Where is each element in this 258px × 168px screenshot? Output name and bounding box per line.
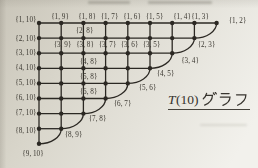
vertex-label: {3, 9} <box>54 41 72 49</box>
vertex-label: {2, 10} <box>15 35 36 43</box>
vertex-label: {7, 8} <box>89 115 107 123</box>
graph-node <box>81 51 85 55</box>
vertex-label: {7, 10} <box>15 109 36 117</box>
vertex-label: {5, 6} <box>139 84 157 92</box>
graph-node <box>170 36 174 40</box>
graph-node <box>148 66 152 70</box>
graph-node <box>59 81 63 85</box>
diagram-title: T(10) <box>168 92 250 110</box>
graph-node <box>192 36 196 40</box>
graph-arc <box>150 53 172 68</box>
graph-node <box>59 127 63 131</box>
vertex-label: {1, 7} <box>101 13 119 21</box>
vertex-label: {1, 5} <box>146 13 164 21</box>
katakana-fu <box>236 95 245 106</box>
vertex-label: {6, 10} <box>15 94 36 102</box>
graph-node <box>170 21 174 25</box>
graph-node <box>59 96 63 100</box>
graph-node <box>103 96 107 100</box>
title-variable-T: T <box>168 92 176 107</box>
vertex-label: {3, 6} <box>121 41 139 49</box>
vertex-label: {1, 10} <box>15 16 36 24</box>
graph-arc <box>61 114 83 129</box>
graph-node <box>37 96 41 100</box>
vertex-label: {8, 9} <box>65 131 83 139</box>
graph-node <box>59 111 63 115</box>
diagram-title-math: T(10) <box>168 93 199 107</box>
graph-node <box>37 142 41 146</box>
graph-arc <box>194 23 216 38</box>
graph-node <box>37 127 41 131</box>
graph-arc <box>128 68 150 83</box>
katakana-ra <box>220 94 230 106</box>
vertex-label: {1, 3} <box>191 13 209 21</box>
vertex-label: {3, 8} <box>76 41 94 49</box>
graph-node <box>81 66 85 70</box>
graph-node <box>59 21 63 25</box>
vertex-label: {8, 10} <box>15 127 36 135</box>
graph-node <box>37 66 41 70</box>
graph-node <box>37 111 41 115</box>
katakana-gu <box>203 92 216 105</box>
graph-node <box>103 21 107 25</box>
vertex-label: {1, 9} <box>51 13 69 21</box>
vertex-label: {3, 10} <box>15 49 36 57</box>
vertex-label: {1, 2} <box>229 17 247 25</box>
vertex-label: {6, 8} <box>80 88 98 96</box>
graph-node <box>126 21 130 25</box>
graph-arc <box>172 38 194 53</box>
vertex-label: {3, 4} <box>181 57 199 65</box>
graph-node <box>37 81 41 85</box>
title-argument: (10) <box>176 92 199 107</box>
title-katakana-graph-text <box>202 92 249 107</box>
graph-node <box>192 21 196 25</box>
vertex-label: {6, 7} <box>114 100 132 108</box>
graph-node <box>126 51 130 55</box>
graph-node <box>81 21 85 25</box>
vertex-label: {2, 8} <box>76 27 94 35</box>
vertex-label: {5, 10} <box>15 79 36 87</box>
graph-node <box>81 111 85 115</box>
graph-node <box>81 81 85 85</box>
graph-node <box>103 51 107 55</box>
graph-node <box>214 21 218 25</box>
graph-node <box>37 51 41 55</box>
graph-node <box>103 81 107 85</box>
vertex-label: {4, 10} <box>15 64 36 72</box>
graph-node <box>148 21 152 25</box>
vertex-label: {1, 6} <box>123 13 141 21</box>
graph-node <box>37 36 41 40</box>
vertex-label: {9, 10} <box>22 150 43 158</box>
graph-node <box>126 66 130 70</box>
vertex-label: {1, 8} <box>78 13 96 21</box>
vertex-label: {3, 5} <box>143 41 161 49</box>
graph-node <box>81 96 85 100</box>
graph-arc <box>83 99 105 114</box>
graph-node <box>148 51 152 55</box>
graph-node <box>59 66 63 70</box>
vertex-label: {2, 3} <box>198 41 216 49</box>
vertex-label: {4, 5} <box>157 70 175 78</box>
t10-graph-diagram: {1, 10}{2, 10}{3, 10}{4, 10}{5, 10}{6, 1… <box>0 0 258 168</box>
graph-node <box>103 66 107 70</box>
vertex-label: {3, 7} <box>99 41 117 49</box>
graph-node <box>37 21 41 25</box>
graph-node <box>170 51 174 55</box>
vertex-label: {4, 8} <box>80 58 98 66</box>
scanned-page: {1, 10}{2, 10}{3, 10}{4, 10}{5, 10}{6, 1… <box>0 0 258 168</box>
graph-node <box>59 51 63 55</box>
vertex-label: {5, 8} <box>80 73 98 81</box>
graph-arc <box>106 83 128 98</box>
graph-arc <box>39 129 61 144</box>
graph-node <box>126 81 130 85</box>
vertex-label: {1, 4} <box>173 13 191 21</box>
